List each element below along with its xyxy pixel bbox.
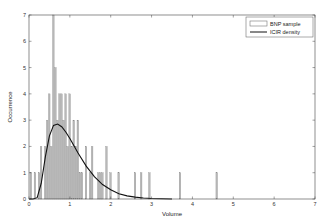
histogram-bar <box>34 173 36 199</box>
histogram-bar <box>63 120 65 199</box>
histogram-bar <box>65 94 67 199</box>
x-tick-label: 3 <box>150 201 153 207</box>
x-tick-label: 5 <box>232 201 235 207</box>
legend-bar-label: BNP sample <box>270 21 300 27</box>
histogram-bar <box>102 173 104 199</box>
y-tick-label: 1 <box>23 170 26 176</box>
histogram-bar <box>71 146 73 199</box>
histogram-bar <box>118 173 120 199</box>
histogram-bar <box>73 120 75 199</box>
y-tick-label: 4 <box>23 91 26 97</box>
x-tick-label: 2 <box>109 201 112 207</box>
x-tick-label: 1 <box>68 201 71 207</box>
histogram-bar <box>106 146 108 199</box>
x-tick-label: 4 <box>191 201 194 207</box>
histogram-bar <box>48 94 50 199</box>
histogram-bar <box>134 173 136 199</box>
histogram-bar <box>67 146 69 199</box>
histogram-bar <box>216 173 218 199</box>
histogram-bar <box>30 173 32 199</box>
legend: BNP sample ICIR density <box>246 17 313 37</box>
y-tick-label: 0 <box>23 196 26 202</box>
histogram-bar <box>46 120 48 199</box>
legend-line-label: ICIR density <box>270 29 300 35</box>
legend-bar-swatch <box>250 21 267 26</box>
histogram-bar <box>79 173 81 199</box>
histogram-bar <box>40 146 42 199</box>
x-tick-label: 7 <box>313 201 316 207</box>
y-tick-label: 6 <box>23 38 26 44</box>
histogram-bar <box>140 173 142 199</box>
histogram-bar <box>97 173 99 199</box>
histogram-bar <box>110 173 112 199</box>
histogram-bar <box>85 146 87 199</box>
histogram-bar <box>52 15 54 199</box>
histogram-bar <box>59 94 61 199</box>
x-tick-label: 0 <box>27 201 30 207</box>
histogram-bar <box>89 173 91 199</box>
y-tick-label: 3 <box>23 117 26 123</box>
histogram-bar <box>99 173 101 199</box>
y-tick-label: 2 <box>23 143 26 149</box>
y-tick-label: 5 <box>23 65 26 71</box>
histogram-bar <box>55 68 57 199</box>
histogram-bar <box>81 173 83 199</box>
histogram-bar <box>69 94 71 199</box>
histogram-bar <box>179 173 181 199</box>
histogram-bar <box>149 173 151 199</box>
y-axis-label: Occurrence <box>7 91 13 123</box>
histogram-bar <box>57 120 59 199</box>
histogram-chart: 0123456701234567 Volume Occurrence BNP s… <box>0 0 332 222</box>
histogram-bar <box>61 94 63 199</box>
y-tick-label: 7 <box>23 12 26 18</box>
x-tick-label: 6 <box>273 201 276 207</box>
histogram-bar <box>77 120 79 199</box>
histogram-bar <box>75 146 77 199</box>
x-axis-label: Volume <box>162 211 183 217</box>
histogram-bar <box>50 146 52 199</box>
